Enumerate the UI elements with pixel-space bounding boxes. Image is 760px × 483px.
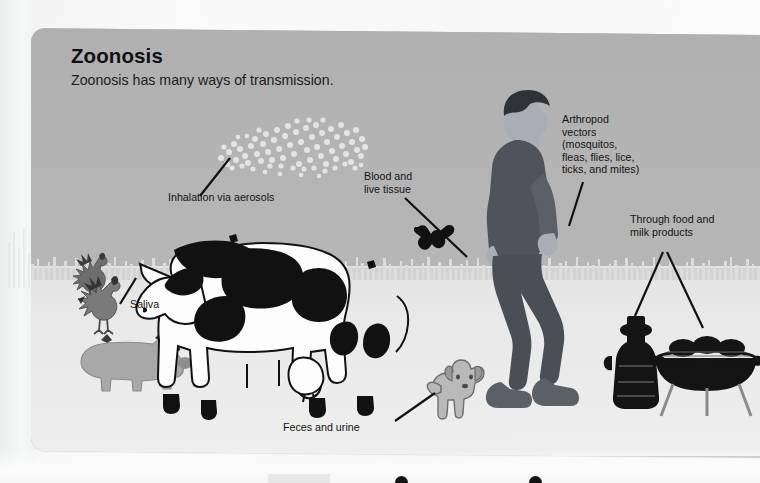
arthropod-leader-line xyxy=(561,180,587,230)
scan-artifact-dot-1 xyxy=(395,476,408,483)
bbq-grill xyxy=(651,328,760,418)
dairy-cow xyxy=(129,234,419,436)
infographic-panel: Zoonosis Zoonosis has many ways of trans… xyxy=(31,28,760,458)
label-feces-urine: Feces and urine xyxy=(283,421,360,434)
feces-leader-line xyxy=(389,391,439,427)
food-leader-line-grill xyxy=(659,250,711,332)
blood-leader-line xyxy=(401,195,473,263)
poster-page: Zoonosis Zoonosis has many ways of trans… xyxy=(0,0,760,483)
label-blood-live-tissue: Blood and live tissue xyxy=(364,170,412,195)
label-arthropod-vectors: Arthropod vectors (mosquitos, fleas, fli… xyxy=(562,113,639,176)
scan-artifact-dot-2 xyxy=(529,476,542,483)
scan-artifact-bar xyxy=(268,474,330,483)
label-saliva: Saliva xyxy=(130,298,159,311)
label-inhalation-aerosols: Inhalation via aerosols xyxy=(168,191,274,204)
label-through-food-milk: Through food and milk products xyxy=(630,213,714,238)
page-title: Zoonosis xyxy=(71,44,163,68)
page-subtitle: Zoonosis has many ways of transmission. xyxy=(71,72,334,88)
